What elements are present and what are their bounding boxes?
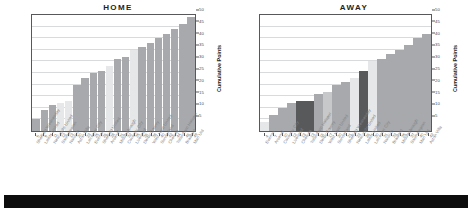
bar	[260, 122, 268, 131]
y-axis-tick: 10	[199, 101, 204, 106]
x-axis-category: Norwich	[377, 142, 386, 188]
x-axis-category: Coventry City	[277, 142, 286, 188]
y-axis-tick: 25	[199, 66, 204, 71]
bar	[395, 50, 403, 131]
x-axis-category: Newcastle United	[350, 142, 359, 188]
bar	[32, 119, 39, 131]
x-axis-category: Liverpool	[286, 142, 295, 188]
bar	[138, 47, 145, 131]
x-axis-category: Middlesbrough	[114, 142, 122, 188]
y-axis-tick: 15	[435, 89, 440, 94]
x-axis-category: Arsenal	[268, 142, 277, 188]
y-axis-tick: 30	[435, 54, 440, 59]
x-axis-category: Tottenham Hotspur	[305, 142, 314, 188]
bar	[122, 57, 129, 131]
x-axis-category: Coventry City	[122, 142, 130, 188]
y-axis-tick: 5	[435, 113, 437, 118]
y-axis-label-away: Cumulative Points	[452, 45, 458, 92]
bar	[81, 78, 88, 131]
bar	[422, 34, 430, 131]
x-axis-category: Middlesbrough	[396, 142, 405, 188]
bar	[269, 115, 277, 131]
x-axis-category: West Ham United	[147, 142, 155, 188]
y-axis-tick: 20	[435, 77, 440, 82]
x-axis-category: Leicester City	[368, 142, 377, 188]
x-axis-category: Man Utd	[414, 142, 423, 188]
x-axis-category: Sunderland	[155, 142, 163, 188]
x-axis-category: Derby County	[314, 142, 323, 188]
x-axis-category: Aston Villa	[72, 142, 80, 188]
x-axis-category: Leicester City	[81, 142, 89, 188]
x-axis-category: Chelsea	[295, 142, 304, 188]
bar	[404, 45, 412, 131]
y-axis-tick: 40	[199, 30, 204, 35]
x-axis-category: Chelsea	[163, 142, 171, 188]
y-axis-tick: 45	[435, 18, 440, 23]
y-axis-tick: 5	[199, 113, 201, 118]
bar	[377, 59, 385, 131]
x-axis-category: Sheffield Wednesday	[341, 142, 350, 188]
x-axis-category: Tottenham Hotspur	[171, 142, 179, 188]
x-axis-category: Leeds United	[359, 142, 368, 188]
bar	[305, 101, 313, 131]
x-axis-category: Norwich	[64, 142, 72, 188]
x-axis-category: Everton	[89, 142, 97, 188]
y-axis-tick: 40	[435, 30, 440, 35]
y-axis-tick: 30	[199, 54, 204, 59]
x-axis-category: Sunderland	[332, 142, 341, 188]
y-axis-tick: 10	[435, 101, 440, 106]
x-axis-category: Aston Villa	[423, 142, 432, 188]
y-axis-tick: 35	[199, 42, 204, 47]
y-axis-label-home: Cumulative Points	[216, 45, 222, 92]
bar	[147, 43, 154, 131]
x-axis-category: Sheffield United	[97, 142, 105, 188]
x-axis-category: Bradford	[180, 142, 188, 188]
x-axis-categories-home: Sheffield WednesdayLeeds UnitedNewcastle…	[31, 142, 196, 188]
y-axis-tick: 45	[199, 18, 204, 23]
x-axis-category: Liverpool	[130, 142, 138, 188]
bar	[278, 108, 286, 131]
y-axis-tick: 50	[199, 7, 204, 12]
figure-container: HOME 5101520253035404550 Cumulative Poin…	[0, 0, 472, 214]
x-axis-category: Southampton	[56, 142, 64, 188]
bar	[106, 66, 113, 131]
bar	[179, 24, 186, 131]
x-axis-category: Derby County	[138, 142, 146, 188]
x-axis-category: Leeds United	[39, 142, 47, 188]
x-axis-category: Sheffield Wednesday	[31, 142, 39, 188]
y-axis-tick: 20	[199, 77, 204, 82]
bar	[155, 38, 162, 131]
y-axis-tick: 35	[435, 42, 440, 47]
footer-band	[4, 195, 468, 208]
x-axis-category: Southampton	[405, 142, 414, 188]
chart-panel-home: HOME 5101520253035404550 Cumulative Poin…	[0, 0, 236, 190]
x-axis-category: Bradford	[387, 142, 396, 188]
x-axis-category: Arsenal	[105, 142, 113, 188]
y-axis-away: 5101520253035404550	[433, 14, 453, 132]
chart-panel-away: AWAY 5101520253035404550 Cumulative Poin…	[236, 0, 472, 190]
x-axis-category: West Ham United	[323, 142, 332, 188]
x-axis-category: Newcastle United	[48, 142, 56, 188]
x-axis-category: Man Utd	[188, 142, 196, 188]
y-axis-tick: 15	[199, 89, 204, 94]
y-axis-home: 5101520253035404550	[197, 14, 217, 132]
y-axis-tick: 50	[435, 7, 440, 12]
y-axis-tick: 25	[435, 66, 440, 71]
x-axis-categories-away: EvertonArsenalCoventry CityLiverpoolChel…	[259, 142, 432, 188]
x-axis-category: Everton	[259, 142, 268, 188]
